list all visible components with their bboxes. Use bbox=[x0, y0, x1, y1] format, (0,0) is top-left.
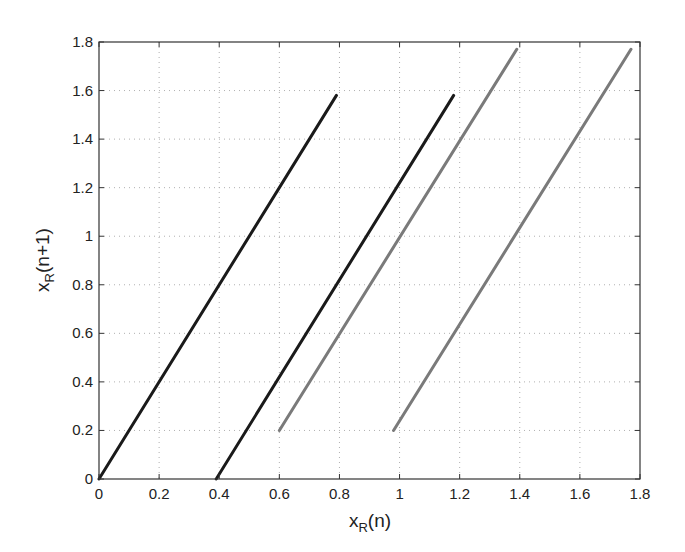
x-tick-label: 1 bbox=[395, 485, 403, 502]
y-tick-label: 1 bbox=[85, 227, 93, 244]
y-axis-label-rest: (n+1) bbox=[32, 228, 53, 273]
y-tick-label: 1.4 bbox=[72, 130, 93, 147]
series-line-branch-1 bbox=[99, 95, 336, 479]
series-lines bbox=[99, 49, 631, 479]
x-tick-label: 1.4 bbox=[509, 485, 530, 502]
y-tick-label: 0.2 bbox=[72, 421, 93, 438]
y-axis-label-sub: R bbox=[42, 273, 57, 282]
x-tick-label: 1.2 bbox=[449, 485, 470, 502]
series-line-branch-3 bbox=[279, 49, 516, 430]
x-axis-label-rest: (n) bbox=[368, 510, 391, 531]
x-tick-label: 0.4 bbox=[209, 485, 230, 502]
y-tick-label: 0.6 bbox=[72, 324, 93, 341]
series-line-branch-4 bbox=[394, 49, 631, 430]
y-tick-label: 0.8 bbox=[72, 276, 93, 293]
chart: 00.20.40.60.811.21.41.61.8 00.20.40.60.8… bbox=[0, 0, 685, 552]
axis-ticks bbox=[99, 42, 640, 479]
x-axis-label-base: x bbox=[349, 510, 359, 531]
plot-area-frame bbox=[99, 42, 640, 479]
y-tick-label: 1.8 bbox=[72, 33, 93, 50]
y-tick-label: 1.6 bbox=[72, 82, 93, 99]
y-tick-label: 0.4 bbox=[72, 373, 93, 390]
x-axis-label: xR(n) bbox=[349, 510, 391, 535]
y-tick-label: 1.2 bbox=[72, 179, 93, 196]
x-tick-label: 0.6 bbox=[269, 485, 290, 502]
y-tick-label: 0 bbox=[85, 470, 93, 487]
y-axis-label: xR(n+1) bbox=[32, 228, 57, 292]
x-tick-label: 1.8 bbox=[630, 485, 651, 502]
y-axis-label-base: x bbox=[32, 282, 53, 292]
x-axis-label-sub: R bbox=[358, 520, 367, 535]
x-tick-labels: 00.20.40.60.811.21.41.61.8 bbox=[95, 485, 651, 502]
series-line-branch-2 bbox=[216, 95, 453, 479]
x-tick-label: 0 bbox=[95, 485, 103, 502]
x-tick-label: 0.2 bbox=[149, 485, 170, 502]
grid bbox=[99, 42, 640, 479]
y-tick-labels: 00.20.40.60.811.21.41.61.8 bbox=[72, 33, 93, 487]
x-tick-label: 1.6 bbox=[569, 485, 590, 502]
x-tick-label: 0.8 bbox=[329, 485, 350, 502]
